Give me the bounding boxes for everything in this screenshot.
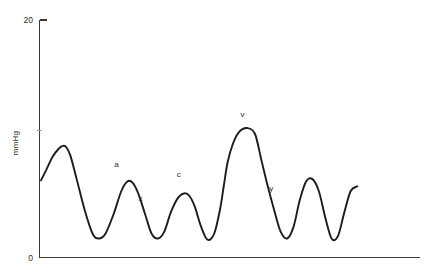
wave-annotation-x: x: [139, 194, 143, 203]
chart-canvas: 20 0 mmHg axcvy: [0, 0, 426, 272]
wave-annotation-v: v: [241, 110, 245, 119]
wave-annotation-group: axcvy: [114, 110, 273, 202]
y-axis-title: mmHg: [11, 131, 20, 155]
y-tick-label-20: 20: [24, 15, 34, 25]
y-tick-label-0: 0: [28, 253, 33, 263]
wave-annotation-y: y: [269, 184, 273, 193]
wave-annotation-c: c: [177, 170, 181, 179]
jvp-trace-line: [41, 128, 357, 240]
jvp-waveform-figure: 20 0 mmHg axcvy: [0, 0, 426, 272]
wave-annotation-a: a: [114, 160, 119, 169]
